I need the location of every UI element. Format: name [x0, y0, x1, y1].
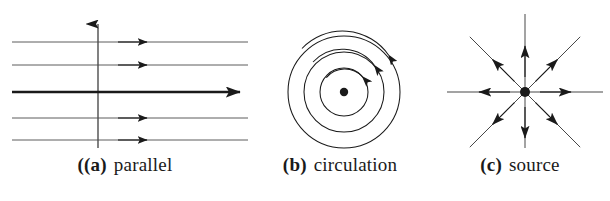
circulation-flow-diagram [250, 0, 430, 150]
source-center-dot [520, 87, 530, 97]
caption-tag-b: (b) [283, 154, 307, 175]
source-flow-diagram [430, 0, 610, 150]
caption-label-source: source [509, 154, 560, 175]
parallel-flow-diagram [0, 0, 250, 150]
panel-source: (c)source [430, 0, 610, 201]
circulation-arrowheads [302, 31, 389, 78]
caption-tag-c: (c) [480, 154, 502, 175]
figure-root: ((a)parallel [0, 0, 610, 201]
caption-source: (c)source [430, 152, 610, 178]
caption-label-parallel: parallel [114, 154, 173, 175]
circulation-center-dot [340, 88, 348, 96]
caption-circulation: (b)circulation [250, 152, 430, 178]
caption-label-circulation: circulation [314, 154, 397, 175]
panel-parallel: ((a)parallel [0, 0, 250, 201]
panel-circulation: (b)circulation [250, 0, 430, 201]
caption-tag-a: (a) [84, 154, 107, 175]
caption-parallel: ((a)parallel [0, 152, 250, 178]
